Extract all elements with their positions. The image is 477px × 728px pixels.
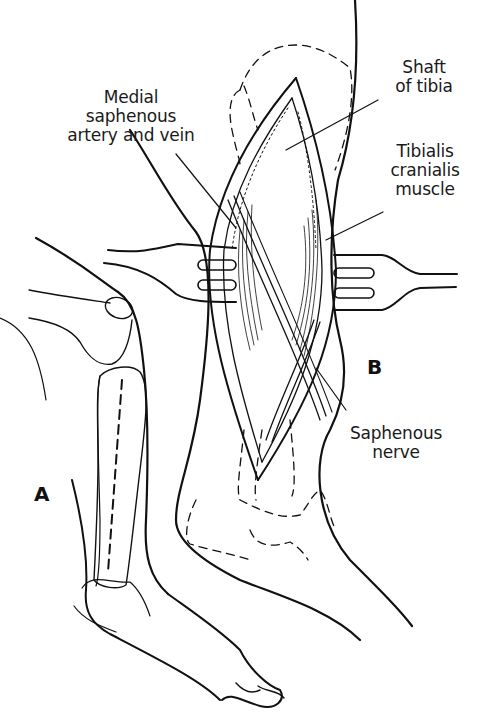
label-line: of tibia [384, 77, 464, 96]
label-shaft-of-tibia: Shaft of tibia [384, 58, 464, 96]
retractor-right [334, 255, 457, 310]
label-line: Tibialis [380, 142, 470, 161]
label-line: saphenous [56, 107, 206, 126]
label-medial-saphenous: Medial saphenous artery and vein [56, 88, 206, 145]
incision [209, 78, 336, 480]
label-saphenous-nerve: Saphenous nerve [346, 424, 446, 462]
label-line: nerve [346, 443, 446, 462]
panel-label-b: B [367, 355, 382, 379]
label-line: Medial [56, 88, 206, 107]
label-line: Saphenous [346, 424, 446, 443]
label-line: muscle [380, 180, 470, 199]
panel-label-a: A [34, 482, 49, 506]
panel-a-limb [0, 238, 284, 707]
label-tibialis-cranialis: Tibialis cranialis muscle [380, 142, 470, 199]
retractor-left [104, 244, 236, 302]
label-line: Shaft [384, 58, 464, 77]
label-line: artery and vein [56, 126, 206, 145]
label-line: cranialis [380, 161, 470, 180]
